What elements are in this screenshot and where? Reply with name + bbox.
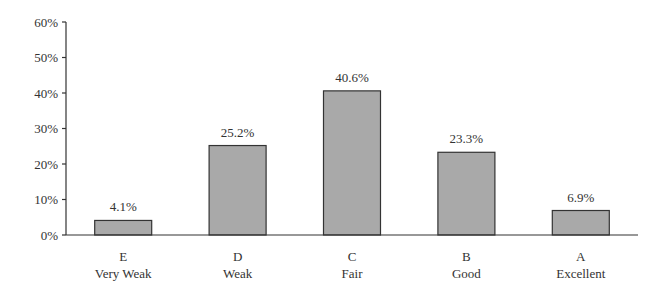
x-tick-name: Very Weak	[95, 266, 152, 281]
x-tick-name: Weak	[223, 266, 253, 281]
x-tick-name: Fair	[342, 266, 364, 281]
y-tick-label: 20%	[34, 157, 58, 172]
bar	[324, 91, 381, 235]
bar-group-c: 40.6%	[324, 70, 381, 235]
bars: 4.1%25.2%40.6%23.3%6.9%	[95, 70, 610, 235]
x-tick-code: E	[119, 249, 127, 264]
y-tick-label: 60%	[34, 15, 58, 30]
bar	[95, 220, 152, 235]
data-label: 6.9%	[567, 190, 594, 205]
x-axis: EVery WeakDWeakCFairBGoodAExcellent	[66, 235, 638, 281]
bar-group-d: 25.2%	[209, 125, 266, 235]
x-tick-code: C	[348, 249, 357, 264]
bar-group-b: 23.3%	[438, 131, 495, 235]
y-tick-label: 0%	[41, 228, 59, 243]
y-tick-label: 50%	[34, 50, 58, 65]
bar	[552, 211, 609, 235]
x-tick-code: A	[576, 249, 586, 264]
x-tick-name: Excellent	[556, 266, 605, 281]
data-label: 40.6%	[335, 70, 369, 85]
bar-group-e: 4.1%	[95, 199, 152, 235]
data-label: 25.2%	[221, 125, 255, 140]
bar-group-a: 6.9%	[552, 190, 609, 235]
y-tick-label: 10%	[34, 192, 58, 207]
bar	[209, 146, 266, 235]
data-label: 23.3%	[450, 131, 484, 146]
bar	[438, 152, 495, 235]
bar-chart: 0%10%20%30%40%50%60% 4.1%25.2%40.6%23.3%…	[0, 0, 668, 297]
data-label: 4.1%	[110, 199, 137, 214]
x-tick-code: D	[233, 249, 242, 264]
x-tick-code: B	[462, 249, 471, 264]
y-axis: 0%10%20%30%40%50%60%	[34, 15, 66, 243]
x-tick-name: Good	[452, 266, 481, 281]
y-tick-label: 40%	[34, 86, 58, 101]
y-tick-label: 30%	[34, 121, 58, 136]
